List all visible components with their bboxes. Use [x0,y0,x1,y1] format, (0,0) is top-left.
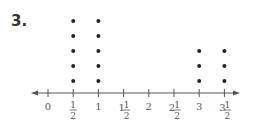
data-dot [222,64,226,68]
data-dot [197,49,201,53]
data-dot [96,34,100,38]
dot-plot: 012111222123312 [0,0,258,132]
tick-label: 3 [196,101,202,112]
tick-label-denominator: 2 [70,111,76,121]
data-dot [96,64,100,68]
data-dot [71,64,75,68]
data-dot [71,19,75,23]
tick-label-numerator: 1 [124,100,130,110]
tick-label-numerator: 1 [174,100,180,110]
data-dot [222,79,226,83]
data-dot [96,79,100,83]
data-dot [71,34,75,38]
tick-label-denominator: 2 [124,111,130,121]
tick-label-numerator: 1 [225,100,231,110]
data-dot [197,64,201,68]
data-dot [222,49,226,53]
right-arrow-icon [233,91,240,96]
tick-label: 2 [146,101,152,112]
tick-label-numerator: 1 [70,100,76,110]
tick-label: 0 [45,101,51,112]
data-dot [71,49,75,53]
data-dot [197,79,201,83]
data-dot [96,49,100,53]
tick-label: 1 [95,101,101,112]
data-dot [96,19,100,23]
left-arrow-icon [31,91,38,96]
tick-label-denominator: 2 [225,111,231,121]
tick-label-denominator: 2 [174,111,180,121]
data-dot [71,79,75,83]
